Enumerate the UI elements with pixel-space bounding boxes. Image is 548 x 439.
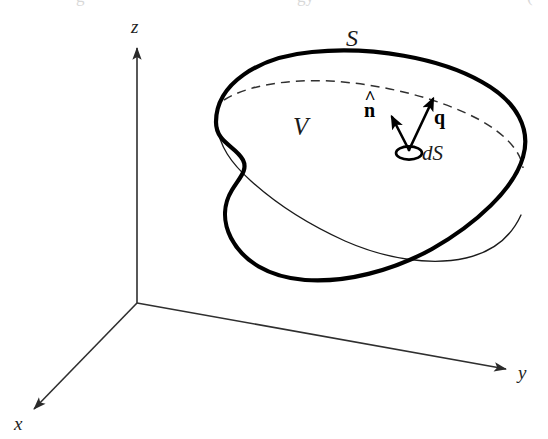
surface-label-s: S [346, 26, 358, 50]
axis-label-y: y [518, 363, 526, 382]
volume-label-v: V [293, 114, 308, 139]
volume-body [216, 50, 525, 280]
diagram-svg [0, 0, 548, 439]
flux-vector-label: q [434, 107, 445, 127]
normal-vector-label: n [364, 100, 375, 120]
normal-vector-symbol: n [364, 100, 375, 120]
axis-line-y [137, 303, 506, 369]
axis-label-x: x [14, 414, 22, 433]
figure-canvas: g gy ( [0, 0, 548, 439]
volume-fill [216, 50, 525, 280]
axis-line-x [34, 303, 137, 409]
axis-label-z: z [131, 17, 138, 36]
surface-element-label-ds: dS [422, 143, 443, 164]
